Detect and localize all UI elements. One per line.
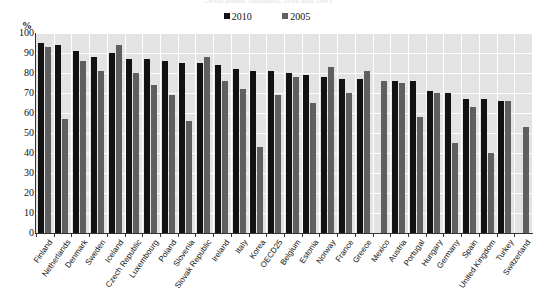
bar-2010-poland — [162, 61, 168, 233]
y-axis-line — [35, 33, 36, 234]
x-tick — [284, 234, 285, 237]
y-tick-label-60: 60 — [0, 108, 34, 118]
bar-2005-france — [346, 93, 352, 233]
bar-2010-czech-republic — [126, 59, 132, 233]
x-tick — [514, 234, 515, 237]
x-tick — [461, 234, 462, 237]
bar-2005-germany — [452, 143, 458, 233]
bar-group — [142, 33, 160, 233]
bar-group — [231, 33, 249, 233]
y-axis-ticks: 1009080706050403020100 — [0, 33, 34, 233]
bar-2005-estonia — [310, 103, 316, 233]
bar-2005-sweden — [98, 71, 104, 233]
x-tick — [319, 234, 320, 237]
x-axis-label-ireland: Ireland — [210, 238, 231, 263]
bar-2005-italy — [240, 89, 246, 233]
bar-2005-slovak-republic — [204, 57, 210, 233]
bar-2010-hungary — [427, 91, 433, 233]
bar-group — [497, 33, 515, 233]
bar-2005-hungary — [434, 93, 440, 233]
bar-2010-italy — [233, 69, 239, 233]
x-axis-labels: FinlandNetherlandsDenmarkSwedenIcelandCz… — [36, 234, 532, 308]
bar-2005-greece — [364, 71, 370, 233]
bar-group — [89, 33, 107, 233]
x-tick — [408, 234, 409, 237]
bar-2010-slovenia — [179, 63, 185, 233]
bar-2005-czech-republic — [133, 73, 139, 233]
bar-2010-sweden — [91, 57, 97, 233]
bar-2005-united-kingdom — [488, 153, 494, 233]
plot-area — [36, 33, 532, 233]
y-tick-label-30: 30 — [0, 168, 34, 178]
bar-2005-portugal — [417, 117, 423, 233]
bar-group — [461, 33, 479, 233]
bar-2005-finland — [45, 47, 51, 233]
chart-legend: 2010 2005 — [0, 11, 534, 25]
bar-2005-netherlands — [62, 119, 68, 233]
bar-2005-norway — [328, 67, 334, 233]
x-tick — [497, 234, 498, 237]
x-tick — [443, 234, 444, 237]
bar-group — [355, 33, 373, 233]
x-tick — [337, 234, 338, 237]
x-tick — [426, 234, 427, 237]
bar-group — [125, 33, 143, 233]
bar-group — [337, 33, 355, 233]
x-tick — [71, 234, 72, 237]
bar-2010-austria — [392, 81, 398, 233]
bar-2010-spain — [463, 99, 469, 233]
y-tick-label-50: 50 — [0, 128, 34, 138]
legend-label-2005: 2005 — [290, 11, 310, 22]
legend-item-2010: 2010 — [224, 11, 252, 22]
bar-group — [36, 33, 54, 233]
y-tick-label-100: 100 — [0, 28, 34, 38]
bar-2010-belgium — [286, 73, 292, 233]
bar-2010-ireland — [215, 65, 221, 233]
legend-label-2010: 2010 — [232, 11, 252, 22]
y-tick-label-80: 80 — [0, 68, 34, 78]
bar-2005-denmark — [80, 61, 86, 233]
x-tick — [36, 234, 37, 237]
bar-group — [178, 33, 196, 233]
y-tick-label-70: 70 — [0, 88, 34, 98]
bar-group — [284, 33, 302, 233]
legend-item-2005: 2005 — [282, 11, 310, 22]
bar-2005-switzerland — [523, 127, 529, 233]
x-axis-label-italy: Italy — [233, 238, 249, 255]
bar-2005-oecd25 — [275, 95, 281, 233]
x-tick — [390, 234, 391, 237]
bar-group — [408, 33, 426, 233]
bar-2005-luxembourg — [151, 85, 157, 233]
bar-2005-belgium — [293, 77, 299, 233]
bar-group — [479, 33, 497, 233]
bar-group — [514, 33, 532, 233]
x-tick — [373, 234, 374, 237]
legend-swatch-2005 — [282, 13, 288, 19]
bar-group — [426, 33, 444, 233]
bar-group — [160, 33, 178, 233]
bar-2005-korea — [257, 147, 263, 233]
bar-2010-france — [339, 79, 345, 233]
bar-group — [373, 33, 391, 233]
bar-2005-turkey — [505, 101, 511, 233]
y-tick-label-90: 90 — [0, 48, 34, 58]
x-tick — [302, 234, 303, 237]
bar-2005-spain — [470, 107, 476, 233]
bar-2010-norway — [321, 77, 327, 233]
bar-group — [195, 33, 213, 233]
x-tick — [213, 234, 214, 237]
x-tick — [195, 234, 196, 237]
bar-2005-iceland — [116, 45, 122, 233]
bar-group — [443, 33, 461, 233]
bar-2010-greece — [357, 79, 363, 233]
x-tick — [266, 234, 267, 237]
bar-2010-oecd25 — [268, 71, 274, 233]
x-tick — [125, 234, 126, 237]
bar-2005-ireland — [222, 81, 228, 233]
bar-group — [302, 33, 320, 233]
bar-group — [107, 33, 125, 233]
bar-2010-denmark — [73, 51, 79, 233]
bar-group — [71, 33, 89, 233]
y-tick-label-20: 20 — [0, 188, 34, 198]
bar-group — [390, 33, 408, 233]
